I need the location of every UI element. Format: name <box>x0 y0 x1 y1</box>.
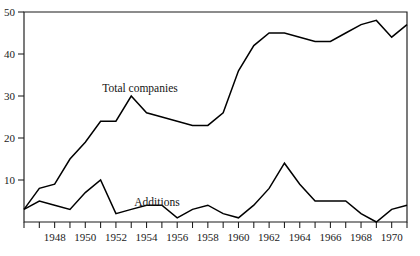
x-tick-label-1966: 1966 <box>319 231 342 243</box>
series-label-additions: Additions <box>134 196 180 208</box>
x-tick-label-1954: 1954 <box>136 231 159 243</box>
x-tick-label-1956: 1956 <box>166 231 189 243</box>
y-tick-label-10: 10 <box>4 174 16 186</box>
series-line-total-companies <box>24 20 407 209</box>
x-tick-label-1952: 1952 <box>105 231 127 243</box>
x-axis-tick-labels: 1948195019521954195619581960196219641966… <box>44 231 404 243</box>
series-line-additions <box>24 163 407 222</box>
y-tick-label-50: 50 <box>4 6 16 18</box>
x-tick-label-1950: 1950 <box>74 231 97 243</box>
x-tick-label-1968: 1968 <box>350 231 373 243</box>
series-lines <box>24 20 407 222</box>
x-tick-label-1962: 1962 <box>258 231 280 243</box>
x-tick-label-1964: 1964 <box>289 231 312 243</box>
x-axis-ticks <box>24 222 407 228</box>
y-tick-label-30: 30 <box>4 90 16 102</box>
y-tick-label-40: 40 <box>4 48 16 60</box>
y-tick-label-20: 20 <box>4 132 16 144</box>
line-chart: 10 20 30 40 50 1948195019521954195619581… <box>0 0 420 256</box>
series-annotations: Total companies Additions <box>102 82 180 208</box>
chart-figure: 10 20 30 40 50 1948195019521954195619581… <box>0 0 420 256</box>
frame-border <box>24 12 407 222</box>
y-axis-ticks <box>18 12 24 180</box>
x-tick-label-1970: 1970 <box>381 231 404 243</box>
y-axis-tick-labels: 10 20 30 40 50 <box>4 6 16 186</box>
series-label-total-companies: Total companies <box>102 82 178 95</box>
plot-frame <box>24 12 407 222</box>
x-tick-label-1958: 1958 <box>197 231 220 243</box>
x-tick-label-1948: 1948 <box>44 231 67 243</box>
x-tick-label-1960: 1960 <box>227 231 250 243</box>
